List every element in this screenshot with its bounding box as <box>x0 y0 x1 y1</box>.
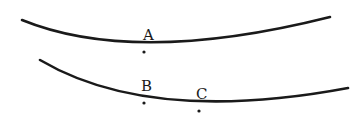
point-c-marker <box>197 109 200 112</box>
point-b-marker <box>142 101 145 104</box>
diagram-canvas: A B C <box>0 0 363 123</box>
upper-curve <box>22 17 330 42</box>
lower-curve <box>40 60 348 101</box>
point-b-label: B <box>141 77 152 95</box>
point-a-marker <box>142 50 145 53</box>
point-a-label: A <box>142 26 154 44</box>
point-c-label: C <box>196 85 207 103</box>
